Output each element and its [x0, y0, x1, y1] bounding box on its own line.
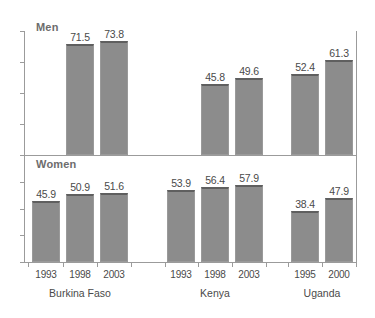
y-axis-women [24, 155, 25, 263]
y-tick-women [20, 182, 24, 183]
bar-value-label-women: 57.9 [229, 172, 269, 184]
bar-men [100, 41, 128, 155]
right-edge-line [356, 31, 357, 263]
y-tick-women [20, 235, 24, 236]
y-axis-men [24, 31, 25, 156]
bar-men [235, 78, 263, 155]
x-axis-country-label: Burkina Faso [25, 287, 135, 299]
y-tick-women [20, 209, 24, 210]
panel-label-women: Women [36, 158, 77, 170]
x-tick [165, 263, 166, 267]
x-tick [63, 263, 64, 267]
bar-value-label-women: 38.4 [285, 198, 325, 210]
bar-men [66, 44, 94, 155]
y-tick-men [20, 31, 24, 32]
bar-men [291, 74, 319, 155]
bar-women [325, 198, 353, 262]
x-axis-country-label: Kenya [160, 287, 270, 299]
panel-label-men: Men [36, 21, 59, 33]
x-tick [322, 263, 323, 267]
x-tick [356, 263, 357, 267]
bar-women [291, 211, 319, 262]
x-tick [232, 263, 233, 267]
bar-women [167, 190, 195, 262]
bar-women [32, 201, 60, 262]
x-tick [97, 263, 98, 267]
bar-women [66, 194, 94, 262]
x-axis-year-label: 2003 [229, 269, 269, 280]
y-tick-men [20, 62, 24, 63]
bar-value-label-women: 51.6 [94, 180, 134, 192]
bar-value-label-men: 52.4 [285, 61, 325, 73]
y-tick-men [20, 124, 24, 125]
x-axis-country-label: Uganda [267, 287, 375, 299]
y-tick-men [20, 155, 24, 156]
x-tick [131, 263, 132, 267]
x-tick [198, 263, 199, 267]
bar-chart: Men Women 45.971.550.973.851.653.945.856… [0, 0, 375, 318]
bar-value-label-men: 61.3 [319, 47, 359, 59]
x-tick [266, 263, 267, 267]
x-tick [288, 263, 289, 267]
y-tick-men [20, 93, 24, 94]
bar-men [201, 84, 229, 155]
x-tick [28, 263, 29, 267]
bar-value-label-men: 49.6 [229, 65, 269, 77]
x-axis-year-label: 2000 [319, 269, 359, 280]
bar-women [201, 187, 229, 262]
panel-divider [24, 155, 356, 156]
y-tick-women [20, 262, 24, 263]
bar-men [325, 60, 353, 155]
bar-women [235, 185, 263, 262]
bar-value-label-men: 73.8 [94, 28, 134, 40]
bar-women [100, 193, 128, 262]
x-axis-baseline [24, 262, 356, 263]
bar-value-label-women: 47.9 [319, 185, 359, 197]
x-axis-year-label: 2003 [94, 269, 134, 280]
